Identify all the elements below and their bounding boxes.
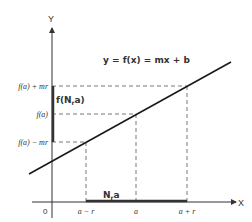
y-tick-upper: f(a) + mr [18,82,49,91]
y-tick-lower: f(a) − mr [18,138,49,147]
origin-label: 0 [43,207,48,216]
linear-function-neighborhood-diagram: Y X 0 y = f(x) = mx + b f(a) + mr f(a) f… [0,0,252,222]
y-interval-label: f(Nra) [56,95,85,106]
y-axis-label: Y [48,14,54,24]
equation-label: y = f(x) = mx + b [103,55,190,65]
x-axis-label: X [238,198,244,208]
y-tick-mid: f(a) [36,110,48,119]
function-line [29,62,231,174]
x-tick-right: a + r [179,207,196,216]
x-tick-left: a − r [78,207,95,216]
x-interval-label: Nra [103,190,120,201]
x-tick-mid: a [134,207,138,216]
